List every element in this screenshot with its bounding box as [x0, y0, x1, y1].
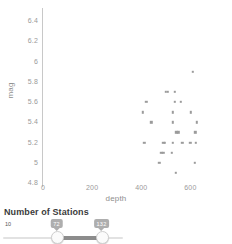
y-tick-label: 6.2	[28, 37, 38, 44]
y-tick-label: 5.4	[28, 118, 38, 125]
data-point	[174, 172, 176, 174]
data-point	[172, 121, 174, 123]
data-point	[174, 91, 176, 93]
slider-low-value-tooltip: 72	[50, 219, 63, 228]
data-point	[189, 141, 191, 143]
data-point	[145, 101, 147, 103]
data-point	[177, 131, 179, 133]
x-tick-label: 600	[184, 184, 196, 191]
data-point	[143, 141, 145, 143]
data-point	[196, 121, 198, 123]
data-point	[179, 101, 181, 103]
data-point	[190, 111, 192, 113]
y-tick-label: 5.6	[28, 98, 38, 105]
x-tick-label: 200	[86, 184, 98, 191]
data-point	[172, 111, 174, 113]
data-point	[172, 141, 174, 143]
plot-area	[43, 11, 215, 183]
x-tick-label: 0	[41, 184, 45, 191]
data-point	[158, 162, 160, 164]
y-tick-label: 5.8	[28, 78, 38, 85]
data-point	[167, 91, 169, 93]
range-slider[interactable]	[3, 234, 123, 241]
y-axis-title: mag	[6, 71, 15, 111]
data-point	[181, 141, 183, 143]
number-of-stations-control: Number of Stations 10 72 132	[0, 205, 232, 241]
data-point	[173, 101, 175, 103]
y-tick-label: 6.4	[28, 17, 38, 24]
data-point	[195, 141, 197, 143]
x-axis-title: depth	[0, 194, 232, 203]
data-point	[192, 71, 194, 73]
x-tick-label: 400	[135, 184, 147, 191]
depth-mag-scatter-chart: 4.855.25.45.65.866.26.4 mag 0200400600 d…	[0, 0, 232, 205]
slider-high-value-tooltip: 132	[94, 219, 110, 228]
data-point	[162, 151, 164, 153]
data-point	[194, 162, 196, 164]
control-title: Number of Stations	[4, 207, 89, 217]
slider-handle-low[interactable]	[51, 231, 64, 244]
data-point	[150, 121, 152, 123]
data-point	[171, 151, 173, 153]
y-tick-label: 5.2	[28, 139, 38, 146]
data-point	[194, 131, 196, 133]
slider-handle-high[interactable]	[96, 231, 109, 244]
data-point	[141, 111, 143, 113]
y-tick-label: 6	[34, 58, 38, 65]
slider-min-label: 10	[5, 221, 11, 227]
y-tick-label: 5	[34, 159, 38, 166]
data-point	[164, 141, 166, 143]
